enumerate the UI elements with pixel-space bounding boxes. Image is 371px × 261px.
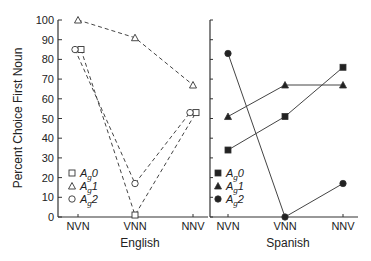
y-tick-label: 30 — [42, 152, 54, 164]
y-tick-label: 80 — [42, 53, 54, 65]
y-tick-label: 20 — [42, 172, 54, 184]
y-axis-label: Percent Choice First Noun — [11, 48, 25, 189]
y-tick-label: 0 — [48, 211, 54, 223]
triangle-marker-icon — [69, 183, 76, 190]
y-axis: 0102030405060708090100 — [36, 14, 62, 223]
y-tick-label: 100 — [36, 14, 54, 26]
english-panel: NVNVNNNNVAg0Ag1Ag2 — [58, 17, 208, 233]
square-marker-icon — [132, 212, 138, 218]
circle-marker-icon — [187, 109, 193, 115]
square-marker-icon — [225, 147, 231, 153]
square-marker-icon — [282, 114, 288, 120]
square-marker-icon — [340, 64, 346, 70]
circle-marker-icon — [340, 180, 346, 186]
y-tick-label: 70 — [42, 73, 54, 85]
x-tick-label: VNN — [273, 220, 296, 232]
x-tick-label: NVN — [66, 220, 89, 232]
spanish-panel: NVNVNNNNVAg0Ag1Ag2 — [210, 20, 358, 232]
square-marker-icon — [193, 110, 199, 116]
triangle-marker-icon — [190, 82, 197, 89]
circle-marker-icon — [225, 50, 231, 56]
series-line — [228, 53, 343, 217]
circle-marker-icon — [72, 46, 78, 52]
legend-label: Ag2 — [225, 193, 244, 208]
circle-marker-icon — [132, 180, 138, 186]
square-marker-icon — [215, 170, 221, 176]
y-tick-label: 40 — [42, 132, 54, 144]
series-line — [81, 50, 196, 215]
y-tick-label: 60 — [42, 93, 54, 105]
circle-marker-icon — [69, 196, 75, 202]
chart: 0102030405060708090100 Percent Choice Fi… — [0, 0, 371, 261]
legend-label: Ag2 — [79, 193, 98, 208]
circle-marker-icon — [215, 196, 221, 202]
series-line — [228, 85, 343, 117]
triangle-marker-icon — [215, 183, 222, 190]
square-marker-icon — [78, 47, 84, 53]
series-line — [75, 50, 190, 184]
y-tick-label: 90 — [42, 34, 54, 46]
english-label: English — [120, 236, 159, 250]
square-marker-icon — [69, 170, 75, 176]
x-tick-label: NNV — [331, 220, 355, 232]
series-line — [78, 20, 193, 85]
y-tick-label: 10 — [42, 191, 54, 203]
x-tick-label: VNN — [123, 220, 146, 232]
series-line — [228, 67, 343, 150]
y-tick-label: 50 — [42, 113, 54, 125]
x-tick-label: NNV — [181, 220, 205, 232]
triangle-marker-icon — [225, 113, 232, 120]
x-tick-label: NVN — [216, 220, 239, 232]
circle-marker-icon — [282, 214, 288, 220]
spanish-label: Spanish — [266, 236, 309, 250]
triangle-marker-icon — [75, 17, 82, 24]
